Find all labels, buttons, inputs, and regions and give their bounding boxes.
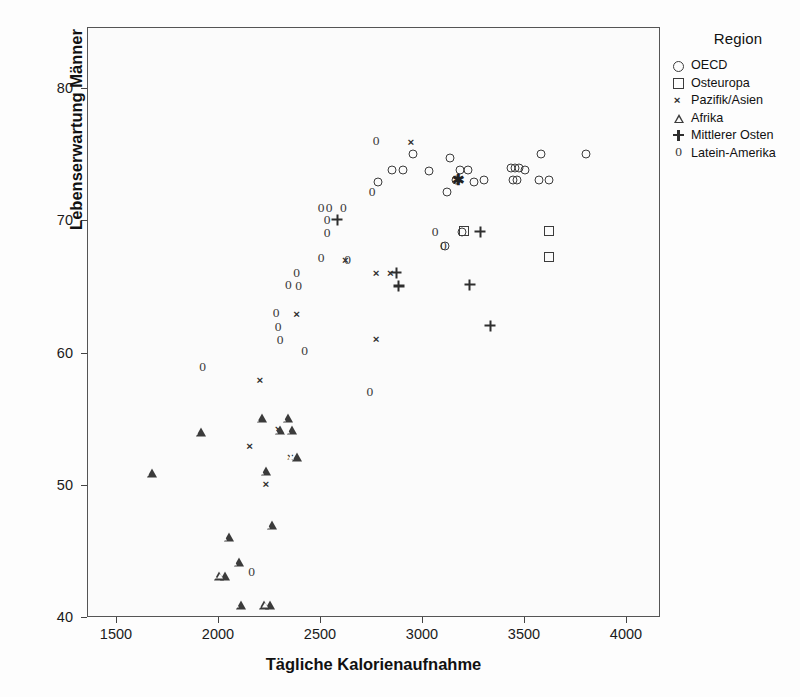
x-tick-3500 (524, 617, 525, 623)
plot-frame: ×××××××××××000000000000000000000✱ (87, 27, 660, 617)
data-point-triangle-icon (147, 468, 157, 477)
data-point-circle-icon (445, 153, 454, 162)
data-point-zero-icon: 0 (198, 361, 207, 373)
y-tick-label-60: 60 (57, 345, 73, 361)
x-tick-2000 (218, 617, 219, 623)
data-point-zero-icon: 0 (274, 321, 283, 333)
square-icon (672, 75, 688, 91)
data-point-x-icon: × (255, 375, 265, 385)
data-point-triangle-icon (287, 426, 297, 435)
data-point-circle-icon (582, 149, 591, 158)
triangle-icon (672, 110, 688, 126)
data-point-zero-icon: 0 (247, 566, 256, 578)
data-point-circle-icon (521, 165, 530, 174)
y-axis-label: Lebenserwartung Männer (67, 0, 86, 270)
data-point-square-icon (544, 252, 554, 262)
data-point-zero-icon: 0 (272, 307, 281, 319)
data-point-zero-icon: 0 (323, 214, 332, 226)
data-point-circle-icon (537, 149, 546, 158)
legend-item-mittlerer-osten[interactable]: Mittlerer Osten (672, 127, 798, 145)
x-tick-label-3500: 3500 (508, 626, 540, 642)
x-tick-1500 (116, 617, 117, 623)
data-point-triangle-icon (283, 414, 293, 423)
x-icon: × (672, 93, 688, 109)
x-tick-label-4000: 4000 (610, 626, 642, 642)
data-point-zero-icon: 0 (343, 254, 352, 266)
data-point-zero-icon: 0 (294, 280, 303, 292)
data-point-zero-icon: 0 (317, 252, 326, 264)
data-point-triangle-icon (220, 571, 230, 580)
data-point-zero-icon: 0 (368, 186, 377, 198)
data-point-zero-icon: 0 (339, 202, 348, 214)
data-point-zero-icon: 0 (323, 227, 332, 239)
data-point-x-icon: × (261, 479, 271, 489)
y-tick-50 (81, 485, 87, 486)
data-point-zero-icon: 0 (276, 334, 285, 346)
legend-title: Region (678, 30, 798, 47)
data-point-triangle-icon (234, 558, 244, 567)
data-point-triangle-icon (292, 452, 302, 461)
y-tick-label-50: 50 (57, 477, 73, 493)
data-point-circle-icon (443, 188, 452, 197)
data-point-triangle-icon (257, 414, 267, 423)
data-point-zero-icon: 0 (439, 240, 448, 252)
x-tick-label-1500: 1500 (100, 626, 132, 642)
data-point-zero-icon: 0 (431, 226, 440, 238)
plus-icon (672, 128, 688, 144)
y-tick-label-40: 40 (57, 609, 73, 625)
legend-item-afrika[interactable]: Afrika (672, 110, 798, 128)
data-point-plus-icon (391, 267, 402, 278)
y-tick-40 (81, 617, 87, 618)
legend-item-label: Pazifik/Asien (691, 94, 763, 107)
zero-icon: 0 (672, 145, 688, 161)
x-tick-4000 (626, 617, 627, 623)
data-point-triangle-icon (261, 467, 271, 476)
circle-icon (672, 58, 688, 74)
data-point-triangle-icon (224, 533, 234, 542)
data-point-triangle-icon (265, 600, 275, 609)
legend-rows: OECDOsteuropa×Pazifik/AsienAfrikaMittler… (672, 57, 798, 162)
data-point-circle-icon (398, 165, 407, 174)
data-point-circle-icon (388, 165, 397, 174)
data-point-circle-icon (512, 176, 521, 185)
x-tick-label-3000: 3000 (406, 626, 438, 642)
legend-item-label: Osteuropa (691, 77, 750, 90)
x-tick-label-2500: 2500 (304, 626, 336, 642)
data-point-plus-icon (332, 214, 343, 225)
data-point-triangle-icon (267, 521, 277, 530)
x-tick-2500 (320, 617, 321, 623)
data-point-x-icon: × (292, 309, 302, 319)
legend: Region OECDOsteuropa×Pazifik/AsienAfrika… (672, 30, 798, 162)
data-point-square-icon (544, 226, 554, 236)
legend-item-label: OECD (691, 59, 727, 72)
legend-item-latein-amerika[interactable]: 0Latein-Amerika (672, 145, 798, 163)
data-point-circle-icon (535, 176, 544, 185)
data-point-circle-icon (545, 176, 554, 185)
data-point-zero-icon: 0 (300, 345, 309, 357)
data-point-zero-icon: 0 (372, 135, 381, 147)
data-point-plus-icon (475, 226, 486, 237)
x-tick-3000 (422, 617, 423, 623)
plot-area: ×××××××××××000000000000000000000✱ (88, 28, 659, 616)
data-point-triangle-icon (196, 427, 206, 436)
data-point-plus-icon (464, 279, 475, 290)
data-point-circle-icon (470, 177, 479, 186)
legend-item-osteuropa[interactable]: Osteuropa (672, 75, 798, 93)
legend-item-label: Afrika (691, 112, 723, 125)
data-point-overlap-star-icon: ✱ (452, 173, 463, 184)
data-point-x-icon: × (371, 334, 381, 344)
data-point-plus-icon (485, 320, 496, 331)
legend-item-oecd[interactable]: OECD (672, 57, 798, 75)
data-point-circle-icon (425, 166, 434, 175)
data-point-circle-icon (480, 176, 489, 185)
legend-item-pazifik-asien[interactable]: ×Pazifik/Asien (672, 92, 798, 110)
legend-item-label: Mittlerer Osten (691, 129, 774, 142)
data-point-plus-icon (393, 281, 404, 292)
data-point-circle-icon (408, 149, 417, 158)
data-point-zero-icon: 0 (365, 386, 374, 398)
data-point-zero-icon: 0 (284, 279, 293, 291)
y-tick-60 (81, 353, 87, 354)
x-axis-label: Tägliche Kalorienaufnahme (87, 655, 660, 674)
data-point-zero-icon: 0 (292, 267, 301, 279)
data-point-x-icon: × (245, 441, 255, 451)
